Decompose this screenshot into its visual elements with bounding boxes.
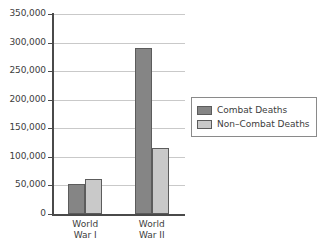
- y-tick-label: 200,000: [9, 95, 46, 104]
- y-tick-label: 300,000: [9, 38, 46, 47]
- legend-item: Non–Combat Deaths: [197, 117, 310, 131]
- x-tick-label-line: World: [112, 219, 192, 230]
- bar-chart: 050,000100,000150,000200,000250,000300,0…: [0, 0, 319, 251]
- y-tick-label: 350,000: [9, 9, 46, 18]
- x-axis-line: [52, 214, 185, 216]
- y-tick-label: 50,000: [15, 180, 46, 189]
- x-tick-label: WorldWar II: [112, 219, 192, 241]
- bar: [135, 48, 152, 214]
- legend: Combat DeathsNon–Combat Deaths: [191, 97, 317, 137]
- x-tick-label-line: War II: [112, 230, 192, 241]
- legend-item: Combat Deaths: [197, 103, 310, 117]
- bar: [68, 184, 85, 214]
- legend-label: Non–Combat Deaths: [217, 119, 310, 129]
- grid-line: [52, 100, 185, 101]
- legend-swatch: [197, 106, 212, 115]
- grid-line: [52, 71, 185, 72]
- plot-area: [52, 14, 185, 214]
- legend-label: Combat Deaths: [217, 105, 287, 115]
- y-tick-label: 100,000: [9, 152, 46, 161]
- grid-line: [52, 128, 185, 129]
- y-tick-label: 250,000: [9, 66, 46, 75]
- grid-line: [52, 14, 185, 15]
- bar: [85, 179, 102, 214]
- y-tick-label: 150,000: [9, 123, 46, 132]
- y-axis-line: [52, 13, 54, 215]
- legend-swatch: [197, 120, 212, 129]
- bar: [152, 148, 169, 214]
- y-tick-label: 0: [40, 209, 46, 218]
- grid-line: [52, 43, 185, 44]
